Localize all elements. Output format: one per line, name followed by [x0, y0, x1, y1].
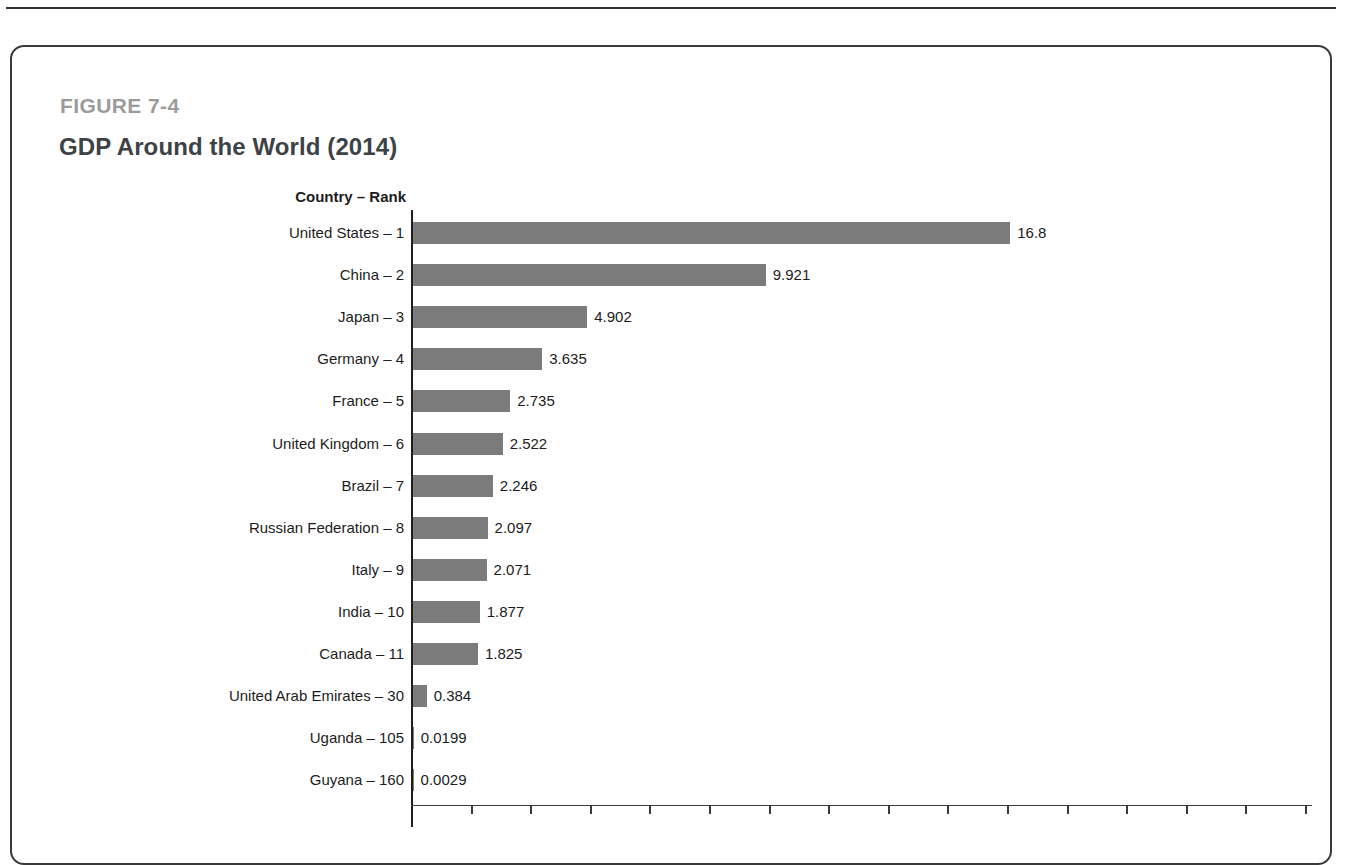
bar: [413, 222, 1010, 244]
category-label: Brazil – 7: [341, 475, 404, 497]
bar-value-label: 9.921: [773, 264, 811, 286]
bar-value-label: 0.0029: [421, 769, 467, 791]
bar: [413, 306, 587, 328]
bar: [413, 727, 414, 749]
category-label: United Kingdom – 6: [272, 433, 404, 455]
value-axis-tick: [1245, 806, 1247, 814]
category-label: Japan – 3: [338, 306, 404, 328]
value-axis-tick: [888, 806, 890, 814]
category-label: United Arab Emirates – 30: [229, 685, 404, 707]
bar-value-label: 1.877: [487, 601, 525, 623]
value-axis-tick: [769, 806, 771, 814]
category-label: Uganda – 105: [310, 727, 404, 749]
bar-value-label: 16.8: [1017, 222, 1046, 244]
bar: [413, 601, 480, 623]
bar-value-label: 0.0199: [421, 727, 467, 749]
category-label: Guyana – 160: [310, 769, 404, 791]
bar: [413, 559, 487, 581]
bar: [413, 264, 766, 286]
value-axis-tick: [1007, 806, 1009, 814]
bar: [413, 517, 488, 539]
bar-value-label: 2.246: [500, 475, 538, 497]
bar: [413, 685, 427, 707]
category-label: Germany – 4: [317, 348, 404, 370]
category-label: United States – 1: [289, 222, 404, 244]
bar: [413, 769, 414, 791]
value-axis-tick: [828, 806, 830, 814]
value-axis-tick: [590, 806, 592, 814]
value-axis-tick: [1067, 806, 1069, 814]
category-label: Canada – 11: [319, 643, 404, 665]
category-label: Russian Federation – 8: [249, 517, 404, 539]
value-axis-line: [411, 805, 1312, 806]
bar: [413, 475, 493, 497]
value-axis-tick: [649, 806, 651, 814]
bar-value-label: 3.635: [549, 348, 587, 370]
bar: [413, 643, 478, 665]
bar-value-label: 2.071: [494, 559, 532, 581]
category-label: China – 2: [340, 264, 404, 286]
value-axis-tick: [471, 806, 473, 814]
category-label: India – 10: [338, 601, 404, 623]
value-axis-tick: [1305, 806, 1307, 814]
bar: [413, 390, 510, 412]
bar-value-label: 2.097: [495, 517, 533, 539]
value-axis-tick: [530, 806, 532, 814]
value-axis-tick: [947, 806, 949, 814]
bar-value-label: 1.825: [485, 643, 523, 665]
bar-value-label: 4.902: [594, 306, 632, 328]
category-label: France – 5: [332, 390, 404, 412]
bar-value-label: 2.522: [510, 433, 548, 455]
category-axis-header: Country – Rank: [295, 188, 406, 205]
bar-value-label: 0.384: [434, 685, 472, 707]
bar: [413, 348, 542, 370]
bar-value-label: 2.735: [517, 390, 555, 412]
value-axis-tick: [1186, 806, 1188, 814]
category-label: Italy – 9: [351, 559, 404, 581]
value-axis-tick: [709, 806, 711, 814]
value-axis-tick: [1126, 806, 1128, 814]
bar: [413, 433, 503, 455]
